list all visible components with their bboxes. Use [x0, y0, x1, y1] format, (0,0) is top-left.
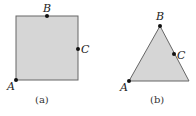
point-c-dot	[76, 47, 80, 51]
caption-a: (a)	[35, 94, 49, 105]
label-c: C	[177, 49, 186, 62]
label-a: A	[119, 81, 128, 94]
figure-a: A B C (a)	[6, 2, 90, 105]
diagram-canvas: A B C (a) A B C (b)	[0, 0, 196, 116]
square-shape	[16, 16, 78, 80]
point-c-dot	[172, 52, 176, 56]
point-b-dot	[158, 24, 162, 28]
label-b: B	[155, 10, 164, 23]
label-c: C	[81, 43, 90, 56]
label-b: B	[42, 2, 51, 15]
caption-b: (b)	[150, 94, 164, 105]
figure-b: A B C (b)	[119, 10, 189, 105]
label-a: A	[6, 80, 15, 93]
